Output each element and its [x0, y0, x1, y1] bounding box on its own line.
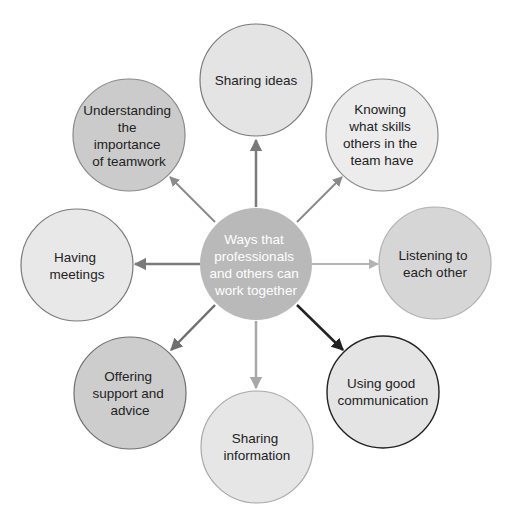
node-label-line: advice: [110, 403, 149, 418]
arrow-to-knowing-skills: [297, 177, 342, 222]
node-label-line: each other: [403, 265, 467, 280]
node-circle: [73, 79, 185, 191]
node-offering-support: Offering support and advice: [74, 337, 186, 449]
node-label-line: communication: [338, 393, 429, 408]
node-having-meetings: Having meetings: [21, 209, 133, 321]
node-sharing-ideas: Sharing ideas: [200, 24, 312, 136]
node-label-line: of teamwork: [92, 154, 166, 169]
arrow-to-using-good-communication: [297, 305, 343, 350]
node-label-line: Offering: [104, 369, 152, 384]
node-label: Sharing ideas: [215, 73, 298, 88]
center-label-line: and others can: [209, 266, 298, 281]
node-label-line: Having: [54, 250, 96, 265]
node-label-line: Understanding: [83, 103, 171, 118]
arrow-to-offering-support: [171, 305, 215, 350]
teamwork-mind-map: Ways that professionals and others can w…: [0, 0, 513, 528]
center-label-line: professionals: [214, 249, 294, 264]
node-label-line: Knowing: [354, 102, 406, 117]
node-label-line: team have: [350, 153, 413, 168]
node-label-line: others in the: [343, 136, 417, 151]
node-circle: [21, 209, 133, 321]
node-label-line: information: [224, 448, 291, 463]
node-label-line: meetings: [50, 267, 105, 282]
node-label-line: Sharing: [232, 431, 279, 446]
node-circle: [327, 336, 439, 448]
center-node: Ways that professionals and others can w…: [200, 208, 312, 320]
node-sharing-information: Sharing information: [201, 391, 313, 503]
node-label-line: Listening to: [399, 248, 468, 263]
center-label-line: Ways that: [224, 232, 284, 247]
node-circle: [201, 391, 313, 503]
node-understanding-teamwork: Understanding the importance of teamwork: [73, 79, 185, 191]
node-label-line: Sharing ideas: [215, 73, 298, 88]
arrow-to-understanding-teamwork: [170, 177, 215, 222]
node-label-line: support and: [92, 386, 163, 401]
node-label-line: importance: [94, 137, 161, 152]
center-label-line: work together: [214, 283, 297, 298]
node-circle: [326, 79, 438, 191]
node-circle: [379, 207, 491, 319]
node-using-good-communication: Using good communication: [327, 336, 439, 448]
node-label-line: what skills: [348, 119, 411, 134]
node-listening: Listening to each other: [379, 207, 491, 319]
node-knowing-skills: Knowing what skills others in the team h…: [326, 79, 438, 191]
node-label-line: the: [118, 120, 137, 135]
center-circle: [200, 208, 312, 320]
node-label-line: Using good: [347, 376, 415, 391]
